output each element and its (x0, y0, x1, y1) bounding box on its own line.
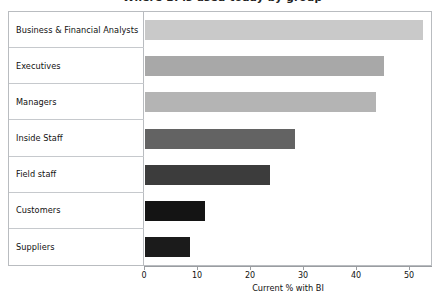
chart-title-clipped: Where BI is used today by group (0, 0, 445, 3)
x-tick-mark (303, 266, 304, 270)
x-tick-mark (144, 266, 145, 270)
category-label: Business & Financial Analysts (9, 12, 144, 48)
category-label: Executives (9, 48, 144, 84)
x-tick-mark (409, 266, 410, 270)
category-label: Managers (9, 84, 144, 120)
category-label-column: Business & Financial AnalystsExecutivesM… (9, 12, 144, 265)
bar (145, 237, 190, 257)
category-label: Customers (9, 193, 144, 229)
category-label: Inside Staff (9, 120, 144, 156)
x-tick-label: 50 (404, 271, 414, 280)
plot-area (145, 12, 431, 265)
x-axis-title: Current % with BI (144, 283, 432, 293)
bar (145, 165, 270, 185)
x-tick-mark (250, 266, 251, 270)
x-tick-mark (197, 266, 198, 270)
x-tick-mark (356, 266, 357, 270)
x-axis: Current % with BI 01020304050 (8, 266, 432, 306)
x-axis-line (144, 266, 432, 267)
x-tick-label: 30 (298, 271, 308, 280)
bar (145, 92, 376, 112)
bar (145, 129, 295, 149)
x-tick-label: 20 (245, 271, 255, 280)
x-tick-label: 10 (192, 271, 202, 280)
category-label: Field staff (9, 157, 144, 193)
bar (145, 201, 205, 221)
x-tick-label: 40 (351, 271, 361, 280)
bar (145, 56, 384, 76)
category-label: Suppliers (9, 229, 144, 265)
chart-frame: Business & Financial AnalystsExecutivesM… (8, 11, 432, 266)
x-tick-label: 0 (141, 271, 146, 280)
bar (145, 20, 423, 40)
